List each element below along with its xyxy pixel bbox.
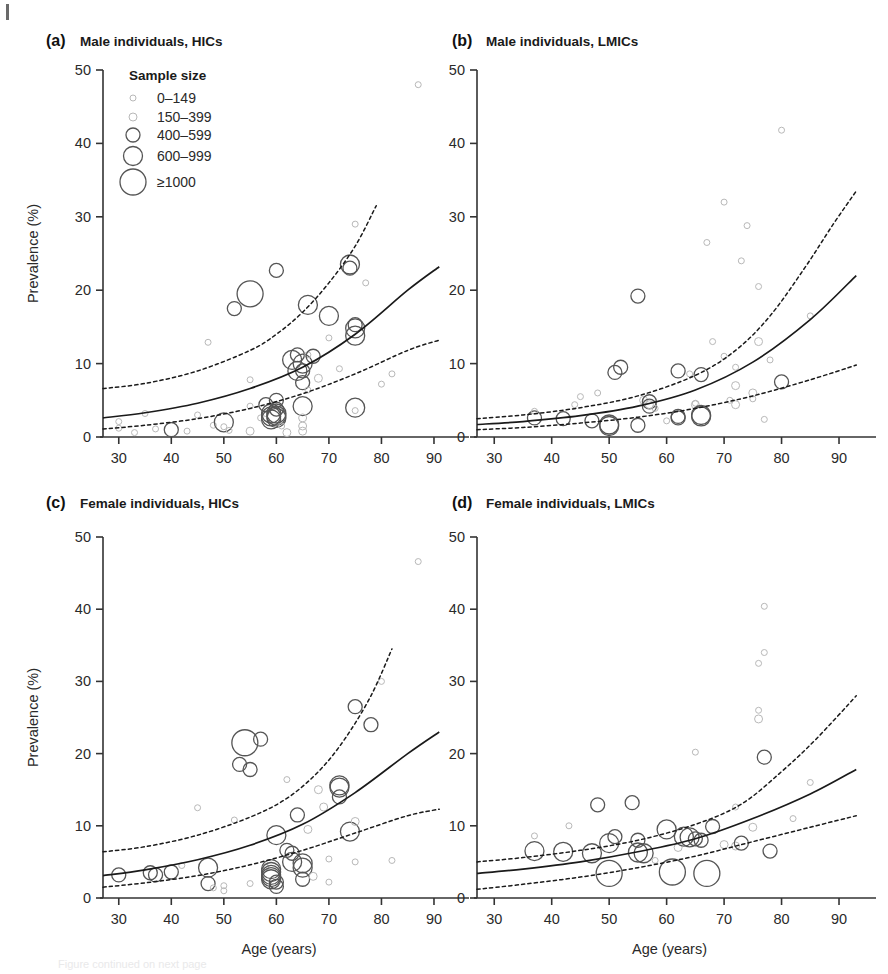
data-point	[732, 401, 740, 409]
upper-bound-curve-a	[103, 206, 376, 389]
legend-label-4: 600–999	[157, 148, 212, 164]
data-point	[749, 823, 757, 831]
y-tick-label-d-40: 40	[449, 601, 465, 617]
data-point	[343, 261, 357, 275]
y-axis-title-a: Prevalence (%)	[25, 204, 41, 303]
data-point	[734, 836, 748, 850]
data-point	[756, 284, 762, 290]
x-tick-label-b-30: 30	[486, 450, 502, 466]
y-tick-label-c-40: 40	[75, 601, 91, 617]
y-tick-label-b-40: 40	[449, 135, 465, 151]
data-point	[314, 374, 322, 382]
data-point	[336, 366, 342, 372]
data-point	[269, 263, 283, 277]
data-point	[687, 371, 693, 377]
data-point	[389, 857, 395, 863]
data-point	[237, 281, 263, 307]
lower-bound-curve-a	[103, 340, 439, 429]
legend-bubble-2	[129, 113, 137, 121]
y-tick-label-b-10: 10	[449, 356, 465, 372]
bottom-caption-ghost: Figure continued on next page	[58, 958, 207, 970]
data-point	[363, 280, 369, 286]
panel-d-title: Female individuals, LMICs	[486, 496, 655, 511]
y-tick-label-a-10: 10	[75, 356, 91, 372]
panel-b: (b)Male individuals, LMICs01020304050304…	[449, 32, 876, 466]
data-point	[572, 402, 578, 408]
data-point	[205, 339, 211, 345]
x-tick-label-a-50: 50	[216, 450, 232, 466]
legend-bubble-3	[126, 128, 140, 142]
data-point	[692, 749, 698, 755]
y-tick-label-b-50: 50	[449, 62, 465, 78]
data-point	[720, 841, 728, 849]
data-point	[694, 860, 720, 886]
y-tick-label-b-30: 30	[449, 209, 465, 225]
data-point	[761, 416, 767, 422]
y-tick-label-b-0: 0	[457, 429, 465, 445]
data-point	[284, 777, 290, 783]
legend-label-2: 150–399	[157, 109, 212, 125]
data-point	[352, 859, 358, 865]
data-point	[201, 877, 215, 891]
data-point	[531, 833, 537, 839]
legend-title: Sample size	[129, 68, 207, 83]
data-point	[721, 199, 727, 205]
data-point	[326, 335, 332, 341]
x-tick-label-b-40: 40	[544, 450, 560, 466]
data-point	[652, 857, 658, 863]
data-point	[364, 718, 378, 732]
data-point	[290, 348, 304, 362]
y-tick-label-c-10: 10	[75, 818, 91, 834]
data-point	[319, 306, 338, 325]
x-tick-label-b-80: 80	[773, 450, 789, 466]
data-point	[738, 258, 744, 264]
data-point	[195, 805, 201, 811]
data-point	[595, 390, 601, 396]
upper-bound-curve-c	[103, 649, 392, 852]
y-tick-label-c-0: 0	[83, 890, 91, 906]
data-point	[247, 881, 253, 887]
data-point	[352, 408, 358, 414]
data-point	[710, 339, 716, 345]
figure-root: (a)Male individuals, HICs010203040503040…	[0, 0, 888, 974]
legend-bubble-1	[130, 95, 136, 101]
x-tick-label-d-50: 50	[601, 911, 617, 927]
x-tick-label-a-90: 90	[426, 450, 442, 466]
y-tick-label-d-10: 10	[449, 818, 465, 834]
data-point	[585, 414, 599, 428]
data-point	[631, 289, 645, 303]
data-point	[692, 407, 711, 426]
panel-b-letter: (b)	[452, 32, 472, 49]
x-tick-label-a-60: 60	[268, 450, 284, 466]
panel-a: (a)Male individuals, HICs010203040503040…	[25, 32, 469, 466]
y-axis-title-c: Prevalence (%)	[25, 668, 41, 767]
data-point	[566, 823, 572, 829]
panel-b-title: Male individuals, LMICs	[486, 34, 638, 49]
panel-d-letter: (d)	[452, 494, 472, 511]
x-tick-label-b-50: 50	[601, 450, 617, 466]
y-tick-label-c-20: 20	[75, 746, 91, 762]
data-point	[807, 779, 813, 785]
data-point	[631, 418, 645, 432]
x-tick-label-c-30: 30	[111, 911, 127, 927]
legend-label-1: 0–149	[157, 90, 196, 106]
fit-curve-d	[477, 769, 856, 873]
x-tick-label-c-40: 40	[163, 911, 179, 927]
x-tick-label-b-70: 70	[716, 450, 732, 466]
sample-size-legend: Sample size0–149150–399400–599600–999≥10…	[120, 68, 212, 195]
data-point	[283, 429, 291, 437]
y-tick-label-d-30: 30	[449, 673, 465, 689]
data-point	[657, 820, 676, 839]
y-tick-label-a-30: 30	[75, 209, 91, 225]
data-point	[221, 424, 227, 430]
data-point	[614, 360, 628, 374]
x-tick-label-d-70: 70	[716, 911, 732, 927]
x-tick-label-d-30: 30	[486, 911, 502, 927]
data-point	[352, 221, 358, 227]
x-tick-label-b-60: 60	[659, 450, 675, 466]
data-point	[600, 416, 619, 435]
x-tick-label-c-50: 50	[216, 911, 232, 927]
x-tick-label-d-40: 40	[544, 911, 560, 927]
data-point	[348, 700, 362, 714]
data-point	[247, 377, 253, 383]
